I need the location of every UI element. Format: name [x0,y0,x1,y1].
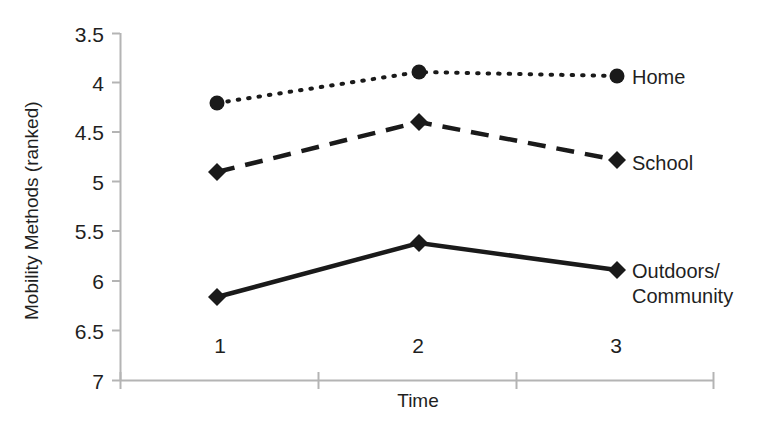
series-school-marker [608,151,626,169]
y-tick-label-4: 4 [22,73,104,94]
series-label-school: School [632,152,693,175]
series-label-outdoors-community-line2: Community [632,285,733,308]
series-outdoors-community-marker [410,234,428,252]
series-school-line [217,122,617,172]
series-outdoors-community-line [217,243,617,297]
series-home-marker [210,96,225,111]
y-axis-title: Mobility Methods (ranked) [22,101,41,320]
x-tick-label-3: 3 [610,335,622,356]
series-outdoors-community-marker [208,288,226,306]
x-axis-title: Time [397,391,439,410]
series-home-marker [610,69,625,84]
y-tick-label-6.5: 6.5 [22,321,104,342]
x-tick-label-2: 2 [412,335,424,356]
series-school-marker [208,163,226,181]
series-label-outdoors-community-line1: Outdoors/ [632,260,720,283]
series-outdoors-community-marker [608,261,626,279]
series-home [210,65,625,111]
chart-plot-area [0,0,771,430]
series-label-home: Home [632,66,685,89]
series-outdoors-community [208,234,626,306]
series-school-marker [410,113,428,131]
y-tick-label-3.5: 3.5 [22,24,104,45]
y-axis-ticks [112,34,120,381]
x-tick-label-1: 1 [214,335,226,356]
line-chart: 3.5 4 4.5 5 5.5 6 6.5 7 1 2 3 Mobility M… [0,0,771,430]
y-tick-label-7: 7 [22,371,104,392]
series-home-marker [412,65,427,80]
series-school [208,113,626,181]
